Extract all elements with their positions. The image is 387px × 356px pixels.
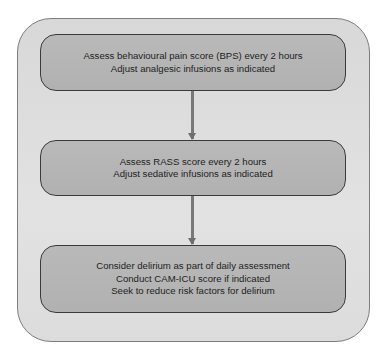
arrow-down-icon <box>191 196 194 244</box>
step-3-line-2: Conduct CAM-ICU score if indicated <box>116 273 270 286</box>
step-sedation-assessment: Assess RASS score every 2 hours Adjust s… <box>40 140 346 196</box>
step-2-line-2: Adjust sedative infusions as indicated <box>113 168 272 181</box>
step-delirium-assessment: Consider delirium as part of daily asses… <box>40 245 346 313</box>
arrow-down-icon <box>191 91 194 139</box>
step-3-line-1: Consider delirium as part of daily asses… <box>96 260 290 273</box>
step-2-line-1: Assess RASS score every 2 hours <box>120 156 267 169</box>
step-1-line-1: Assess behavioural pain score (BPS) ever… <box>83 50 302 63</box>
step-1-line-2: Adjust analgesic infusions as indicated <box>111 63 275 76</box>
step-3-line-3: Seek to reduce risk factors for delirium <box>111 285 275 298</box>
step-pain-assessment: Assess behavioural pain score (BPS) ever… <box>40 34 346 91</box>
